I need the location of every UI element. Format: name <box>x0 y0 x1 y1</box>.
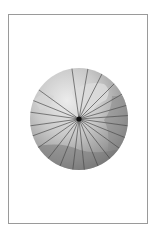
sphere-diagram <box>0 0 159 233</box>
center-point <box>76 116 81 121</box>
